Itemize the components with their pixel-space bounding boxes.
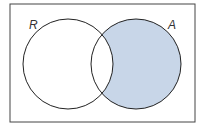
venn-diagram: R A	[0, 0, 203, 127]
set-a-label: A	[167, 18, 176, 32]
set-r-label: R	[29, 18, 38, 32]
